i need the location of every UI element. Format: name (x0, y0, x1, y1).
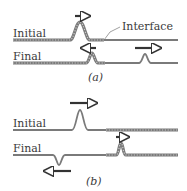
panel-b-caption: (b) (86, 175, 102, 188)
panel-a-caption: (a) (88, 71, 103, 84)
panel-b-final-label: Final (13, 142, 42, 155)
reflection-transmission-diagram: Initial Interface Final (a) Initial (0, 0, 187, 191)
panel-a-initial-label: Initial (13, 27, 46, 40)
panel-a-final-label: Final (13, 50, 42, 63)
panel-b: Initial Final (b) (13, 103, 178, 188)
panel-b-final-heavy-rope (106, 143, 178, 155)
panel-a-final-light-rope (105, 54, 178, 63)
panel-a: Initial Interface Final (a) (13, 16, 178, 84)
panel-b-initial-label: Initial (13, 117, 46, 130)
interface-leader-line (104, 27, 120, 40)
interface-label: Interface (122, 20, 173, 33)
panel-b-final-light-rope (13, 155, 106, 165)
